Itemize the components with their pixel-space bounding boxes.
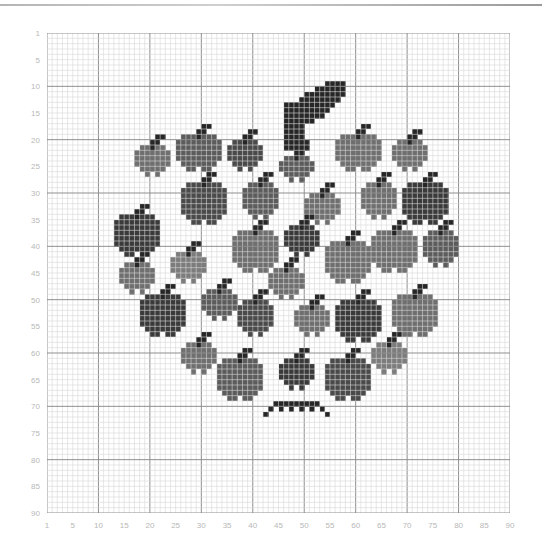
y-axis-label: 45 bbox=[0, 269, 40, 278]
y-axis-label: 55 bbox=[0, 322, 40, 331]
y-axis-label: 20 bbox=[0, 135, 40, 144]
y-axis-label: 75 bbox=[0, 429, 40, 438]
y-axis-label: 5 bbox=[0, 55, 40, 64]
y-axis-label: 1 bbox=[0, 29, 40, 38]
x-axis-label: 15 bbox=[120, 521, 129, 530]
x-axis-label: 60 bbox=[351, 521, 360, 530]
y-axis-label: 10 bbox=[0, 82, 40, 91]
y-axis-label: 30 bbox=[0, 189, 40, 198]
x-axis-label: 1 bbox=[45, 521, 49, 530]
y-axis-label: 90 bbox=[0, 509, 40, 518]
y-axis-label: 60 bbox=[0, 349, 40, 358]
y-axis-label: 15 bbox=[0, 109, 40, 118]
y-axis-label: 25 bbox=[0, 162, 40, 171]
x-axis-label: 20 bbox=[145, 521, 154, 530]
x-axis-label: 45 bbox=[274, 521, 283, 530]
x-axis-label: 35 bbox=[223, 521, 232, 530]
top-divider-line bbox=[0, 4, 542, 6]
x-axis-label: 90 bbox=[506, 521, 515, 530]
y-axis-label: 85 bbox=[0, 482, 40, 491]
x-axis-label: 10 bbox=[94, 521, 103, 530]
x-axis-label: 30 bbox=[197, 521, 206, 530]
cross-stitch-pattern-grid bbox=[47, 33, 510, 513]
y-axis-label: 40 bbox=[0, 242, 40, 251]
y-axis-label: 50 bbox=[0, 295, 40, 304]
x-axis-label: 5 bbox=[70, 521, 74, 530]
x-axis-label: 65 bbox=[377, 521, 386, 530]
grid-lines bbox=[47, 33, 510, 513]
x-axis-label: 25 bbox=[171, 521, 180, 530]
x-axis-label: 55 bbox=[325, 521, 334, 530]
x-axis-label: 85 bbox=[480, 521, 489, 530]
x-axis-label: 70 bbox=[403, 521, 412, 530]
x-axis-label: 80 bbox=[454, 521, 463, 530]
y-axis-label: 70 bbox=[0, 402, 40, 411]
y-axis-label: 65 bbox=[0, 375, 40, 384]
y-axis-label: 80 bbox=[0, 455, 40, 464]
x-axis-label: 40 bbox=[248, 521, 257, 530]
x-axis-label: 75 bbox=[428, 521, 437, 530]
y-axis-label: 35 bbox=[0, 215, 40, 224]
x-axis-label: 50 bbox=[300, 521, 309, 530]
